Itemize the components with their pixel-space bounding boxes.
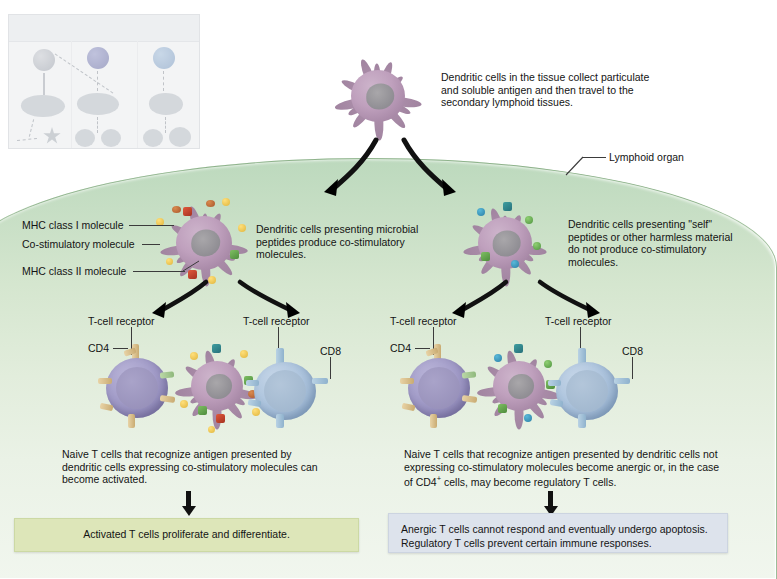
inset-star-a — [43, 127, 61, 145]
activated-outcome-box: Activated T cells proliferate and differ… — [14, 518, 359, 552]
tcell-nucleus — [264, 370, 306, 412]
surface-receptor — [430, 414, 437, 428]
tissue-dendritic-cell — [330, 46, 426, 146]
costim-molecule — [180, 400, 188, 408]
mhc-class-ii-leader-hook — [182, 258, 206, 274]
thumbnail-inset — [8, 14, 200, 149]
cd8-coreceptor — [614, 378, 630, 384]
costim-molecule — [240, 350, 248, 358]
inset-dash-e — [163, 71, 164, 91]
right-tcr-label-cd8: T-cell receptor — [545, 315, 612, 327]
self-peptide-molecule — [503, 202, 512, 211]
left-cd8-leader — [330, 357, 331, 379]
right-branch-caption: Dendritic cells presenting "self" peptid… — [568, 218, 736, 268]
inset-blob-c — [75, 129, 95, 147]
surface-receptor — [578, 414, 586, 428]
self-peptide-molecule — [511, 260, 519, 268]
co-stimulatory-leader — [142, 244, 160, 245]
right-tcr-label-cd4: T-cell receptor — [390, 315, 457, 327]
left-cd4-leader — [113, 348, 128, 349]
costim-molecule — [208, 426, 215, 433]
right-cd8-leader — [632, 357, 633, 379]
inset-dash-a — [29, 119, 34, 137]
self-peptide-molecule — [514, 344, 523, 353]
surface-receptor — [548, 380, 561, 386]
costim-molecule — [252, 408, 260, 416]
inset-blob-b — [77, 93, 119, 115]
tcell-nucleus — [116, 367, 158, 409]
cd8-coreceptor — [312, 378, 328, 384]
right-summary-part2: cells, may become regulatory T cells. — [441, 476, 616, 488]
costim-molecule — [190, 352, 198, 360]
right-outcome-arrow — [548, 491, 553, 507]
inset-blob-a — [21, 95, 65, 117]
inset-blob-g — [169, 127, 191, 147]
inset-header-band — [9, 15, 199, 42]
lymphoid-organ-label: Lymphoid organ — [609, 151, 684, 163]
surface-receptor — [246, 380, 259, 386]
tcell-nucleus — [566, 370, 608, 412]
intro-text: Dendritic cells in the tissue collect pa… — [441, 71, 665, 109]
right-synapse-dendritic-cell — [470, 338, 568, 434]
inset-dash-b — [17, 138, 37, 141]
mhc-class-i-label: MHC class I molecule — [22, 219, 124, 231]
costim-molecule — [166, 258, 173, 265]
inset-dash-f — [165, 117, 166, 133]
inset-blob-f — [143, 129, 163, 147]
mhc1-molecule — [206, 200, 215, 207]
right-branch-summary: Naive T cells that recognize antigen pre… — [404, 448, 724, 488]
surface-receptor — [98, 378, 112, 384]
right-cd8-label: CD8 — [622, 345, 643, 357]
left-branch-summary: Naive T cells that recognize antigen pre… — [62, 448, 334, 486]
mhc1-molecule — [172, 206, 181, 213]
surface-receptor — [128, 414, 135, 428]
mhc2-molecule — [230, 250, 239, 259]
inset-dash-d — [97, 117, 98, 133]
left-synapse-dendritic-cell — [168, 338, 266, 434]
left-branch-caption: Dendritic cells presenting microbial pep… — [256, 223, 431, 261]
inset-cell-b — [87, 47, 109, 69]
mhc2-molecule — [212, 344, 221, 353]
mhc-class-i-leader — [129, 225, 174, 226]
inset-arrow-a — [43, 73, 45, 95]
inset-divider-2 — [137, 41, 138, 148]
self-peptide-molecule — [498, 404, 507, 413]
inset-divider-1 — [71, 41, 72, 148]
tcell-nucleus — [418, 367, 460, 409]
self-peptide-molecule — [544, 360, 552, 368]
inset-cell-c — [153, 47, 175, 69]
self-peptide-molecule — [494, 354, 502, 362]
costim-molecule — [222, 198, 230, 206]
lymphoid-organ-leader-hook — [562, 156, 586, 180]
left-cd4-label: CD4 — [88, 342, 109, 354]
left-tcr-label-cd4: T-cell receptor — [88, 315, 155, 327]
co-stimulatory-label: Co-stimulatory molecule — [22, 238, 135, 250]
mhc2-molecule — [216, 414, 225, 423]
self-peptide-molecule — [524, 414, 532, 422]
left-tcr-label-cd8: T-cell receptor — [243, 315, 310, 327]
self-peptide-molecule — [477, 208, 485, 216]
self-peptide-molecule — [481, 252, 490, 261]
mhc-class-ii-leader — [133, 271, 185, 272]
mhc2-molecule — [183, 207, 192, 216]
surface-receptor — [400, 378, 414, 384]
left-outcome-arrow — [186, 491, 191, 507]
inset-blob-e — [149, 93, 183, 115]
right-cd4-label: CD4 — [390, 342, 411, 354]
inset-blob-d — [101, 129, 121, 147]
left-cd8-label: CD8 — [320, 345, 341, 357]
mhc2-molecule — [198, 406, 207, 415]
anergic-outcome-box: Anergic T cells cannot respond and event… — [388, 513, 728, 553]
inset-cell-a — [33, 49, 55, 71]
self-peptide-molecule — [533, 242, 541, 250]
surface-receptor — [276, 414, 284, 428]
mhc-class-ii-label: MHC class II molecule — [22, 265, 126, 277]
right-cd4-leader — [415, 348, 430, 349]
self-peptide-molecule — [525, 216, 533, 224]
costim-molecule — [238, 224, 246, 232]
